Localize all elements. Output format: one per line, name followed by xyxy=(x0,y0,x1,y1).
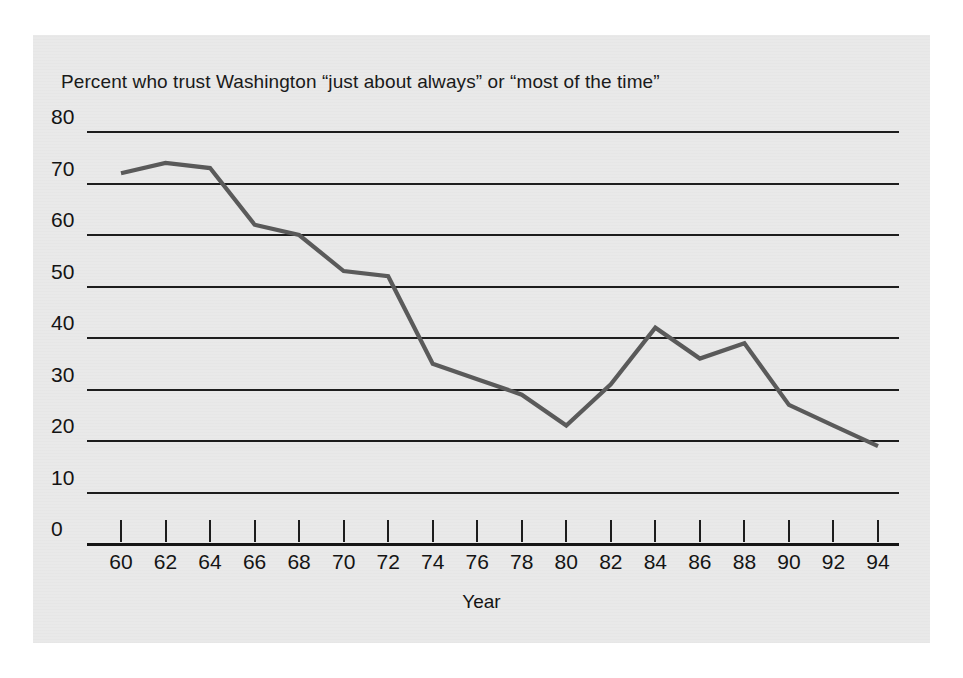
x-axis-tick-80 xyxy=(565,520,567,542)
y-axis-label-10: 10 xyxy=(51,467,97,488)
x-axis-label-60: 60 xyxy=(101,551,141,572)
x-axis-label-66: 66 xyxy=(235,551,275,572)
x-axis-tick-88 xyxy=(743,520,745,542)
x-axis-tick-82 xyxy=(610,520,612,542)
x-axis-tick-72 xyxy=(387,520,389,542)
gridline-70 xyxy=(87,183,899,185)
x-axis-label-80: 80 xyxy=(546,551,586,572)
x-axis-tick-66 xyxy=(254,520,256,542)
x-axis-label-70: 70 xyxy=(324,551,364,572)
gridline-10 xyxy=(87,492,899,494)
y-axis-label-0: 0 xyxy=(51,518,97,539)
x-axis-line xyxy=(87,543,899,546)
x-axis-label-68: 68 xyxy=(279,551,319,572)
y-axis-label-20: 20 xyxy=(51,415,97,436)
x-axis-label-88: 88 xyxy=(724,551,764,572)
x-axis-tick-94 xyxy=(877,520,879,542)
x-axis-label-62: 62 xyxy=(146,551,186,572)
y-axis-label-80: 80 xyxy=(51,106,97,127)
x-axis-label-72: 72 xyxy=(368,551,408,572)
x-axis-tick-74 xyxy=(432,520,434,542)
x-axis-tick-64 xyxy=(209,520,211,542)
x-axis-label-94: 94 xyxy=(858,551,898,572)
y-axis-label-60: 60 xyxy=(51,209,97,230)
x-axis-tick-68 xyxy=(298,520,300,542)
y-axis-label-50: 50 xyxy=(51,261,97,282)
x-axis-label-92: 92 xyxy=(813,551,853,572)
x-axis-tick-70 xyxy=(343,520,345,542)
x-axis-tick-62 xyxy=(165,520,167,542)
x-axis-label-64: 64 xyxy=(190,551,230,572)
x-axis-label-76: 76 xyxy=(457,551,497,572)
x-axis-tick-90 xyxy=(788,520,790,542)
x-axis-tick-78 xyxy=(521,520,523,542)
x-axis-label-90: 90 xyxy=(769,551,809,572)
trust-line-series xyxy=(121,163,878,446)
chart-figure: Percent who trust Washington “just about… xyxy=(33,35,930,643)
x-axis-label-84: 84 xyxy=(635,551,675,572)
x-axis-tick-92 xyxy=(832,520,834,542)
gridline-20 xyxy=(87,440,899,442)
gridline-30 xyxy=(87,389,899,391)
x-axis-label-86: 86 xyxy=(680,551,720,572)
x-axis-label-82: 82 xyxy=(591,551,631,572)
chart-title: Percent who trust Washington “just about… xyxy=(61,71,660,93)
x-axis-title: Year xyxy=(33,591,930,613)
x-axis-label-78: 78 xyxy=(502,551,542,572)
y-axis-label-30: 30 xyxy=(51,364,97,385)
gridline-50 xyxy=(87,286,899,288)
x-axis-tick-86 xyxy=(699,520,701,542)
x-axis-label-74: 74 xyxy=(413,551,453,572)
x-axis-tick-84 xyxy=(654,520,656,542)
gridline-80 xyxy=(87,131,899,133)
gridline-60 xyxy=(87,234,899,236)
x-axis-tick-76 xyxy=(476,520,478,542)
y-axis-label-70: 70 xyxy=(51,158,97,179)
y-axis-label-40: 40 xyxy=(51,312,97,333)
x-axis-tick-60 xyxy=(120,520,122,542)
gridline-40 xyxy=(87,337,899,339)
